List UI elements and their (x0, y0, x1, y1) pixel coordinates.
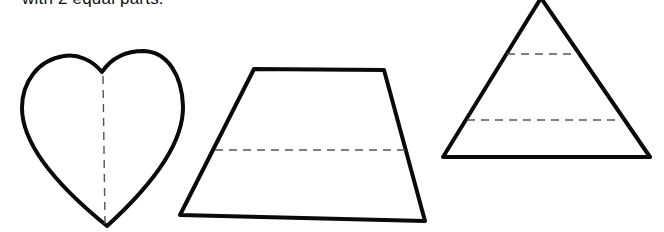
trapezoid-shape (180, 69, 425, 221)
trapezoid-outline (180, 69, 425, 221)
heart-shape (22, 51, 183, 226)
heart-divider-line (103, 76, 105, 224)
triangle-shape (443, 0, 650, 157)
triangle-outline (443, 0, 650, 157)
shapes-canvas (0, 0, 664, 232)
